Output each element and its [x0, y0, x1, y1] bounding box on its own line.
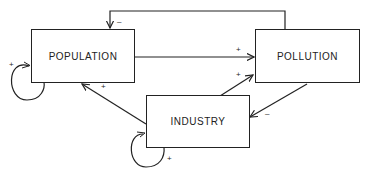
- sign-pollution-to-industry: –: [265, 110, 269, 118]
- edge-industry-to-population: [82, 84, 146, 124]
- sign-industry-to-population: +: [101, 83, 106, 91]
- node-industry: INDUSTRY: [146, 95, 250, 148]
- sign-industry-self: +: [167, 155, 172, 163]
- node-population: POPULATION: [31, 29, 135, 83]
- sign-population-to-pollution: +: [236, 46, 241, 54]
- node-population-label: POPULATION: [49, 51, 118, 62]
- sign-pollution-to-population: –: [117, 18, 121, 26]
- edge-pollution-to-industry: [250, 84, 307, 117]
- edge-pollution-to-population: [110, 11, 285, 30]
- node-pollution: POLLUTION: [255, 29, 360, 83]
- sign-population-self: +: [9, 61, 14, 69]
- diagram-edges: [0, 0, 367, 175]
- sign-industry-to-pollution: +: [236, 71, 241, 79]
- node-industry-label: INDUSTRY: [171, 116, 226, 127]
- node-pollution-label: POLLUTION: [277, 51, 338, 62]
